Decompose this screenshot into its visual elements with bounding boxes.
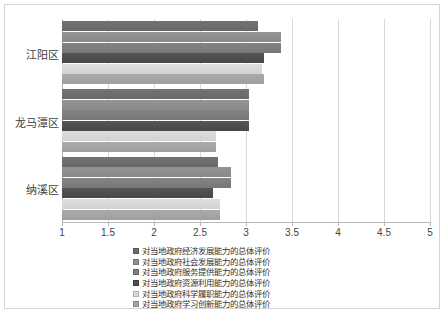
gridline-3.5 — [292, 19, 293, 222]
tick-label-4: 4 — [335, 227, 341, 238]
legend-item-1[interactable]: 对当地政府经济发展能力的总体评价 — [133, 246, 363, 257]
tickmark-2 — [154, 222, 155, 226]
bar-1-3[interactable] — [62, 43, 281, 53]
bar-1-2[interactable] — [62, 32, 281, 42]
legend-label-4: 对当地政府资源利用能力的总体评价 — [142, 278, 270, 288]
tick-label-2: 2 — [151, 227, 157, 238]
tickmark-4.5 — [384, 222, 385, 226]
category-label-1: 江阳区 — [15, 46, 59, 62]
bar-1-4[interactable] — [62, 53, 264, 63]
tick-label-1.5: 1.5 — [101, 227, 115, 238]
legend-swatch-icon-3 — [133, 269, 139, 275]
tick-label-4.5: 4.5 — [377, 227, 391, 238]
bar-1-6[interactable] — [62, 74, 264, 84]
bar-2-5[interactable] — [62, 131, 216, 141]
legend-item-6[interactable]: 对当地政府学习创新能力的总体评价 — [133, 299, 363, 310]
legend-swatch-icon-6 — [133, 301, 139, 307]
tick-label-3.5: 3.5 — [285, 227, 299, 238]
gridline-5 — [430, 19, 431, 222]
bar-3-6[interactable] — [62, 210, 220, 220]
tick-label-3: 3 — [243, 227, 249, 238]
bar-2-6[interactable] — [62, 142, 216, 152]
gridline-4.5 — [384, 19, 385, 222]
legend-item-5[interactable]: 对当地政府科学履职能力的总体评价 — [133, 288, 363, 299]
tickmark-2.5 — [200, 222, 201, 226]
legend-swatch-icon-1 — [133, 248, 139, 254]
tickmark-1.5 — [108, 222, 109, 226]
tickmark-3.5 — [292, 222, 293, 226]
legend-swatch-icon-5 — [133, 291, 139, 297]
legend-label-6: 对当地政府学习创新能力的总体评价 — [142, 299, 270, 309]
gridline-4 — [338, 19, 339, 222]
legend-swatch-icon-4 — [133, 280, 139, 286]
bar-3-5[interactable] — [62, 199, 220, 209]
chart-frame: 江阳区龙马潭区纳溪区 11.522.533.544.55 对当地政府经济发展能力… — [4, 4, 440, 309]
legend-label-1: 对当地政府经济发展能力的总体评价 — [142, 246, 270, 256]
legend-label-3: 对当地政府服务提供能力的总体评价 — [142, 267, 270, 277]
bar-3-1[interactable] — [62, 157, 218, 167]
bar-3-4[interactable] — [62, 188, 213, 198]
tickmark-3 — [246, 222, 247, 226]
bar-2-1[interactable] — [62, 89, 249, 99]
tickmark-4 — [338, 222, 339, 226]
chart-legend: 对当地政府经济发展能力的总体评价对当地政府社会发展能力的总体评价对当地政府服务提… — [133, 246, 363, 310]
bar-2-2[interactable] — [62, 100, 249, 110]
tickmark-5 — [430, 222, 431, 226]
plot-area — [62, 19, 430, 222]
legend-item-2[interactable]: 对当地政府社会发展能力的总体评价 — [133, 257, 363, 268]
bar-1-5[interactable] — [62, 64, 262, 74]
legend-item-4[interactable]: 对当地政府资源利用能力的总体评价 — [133, 278, 363, 289]
legend-label-2: 对当地政府社会发展能力的总体评价 — [142, 257, 270, 267]
legend-item-3[interactable]: 对当地政府服务提供能力的总体评价 — [133, 267, 363, 278]
bar-3-2[interactable] — [62, 167, 231, 177]
bar-1-1[interactable] — [62, 21, 258, 31]
bar-2-4[interactable] — [62, 121, 249, 131]
tick-label-2.5: 2.5 — [193, 227, 207, 238]
legend-label-5: 对当地政府科学履职能力的总体评价 — [142, 289, 270, 299]
tick-label-5: 5 — [427, 227, 433, 238]
bar-2-3[interactable] — [62, 110, 249, 120]
tick-label-1: 1 — [59, 227, 65, 238]
bar-3-3[interactable] — [62, 178, 231, 188]
category-label-3: 纳溪区 — [15, 181, 59, 197]
legend-swatch-icon-2 — [133, 259, 139, 265]
tickmark-1 — [62, 222, 63, 226]
category-label-2: 龙马潭区 — [15, 114, 59, 130]
